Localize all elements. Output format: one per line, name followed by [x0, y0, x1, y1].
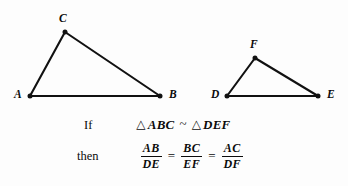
triangle-abc-outline [30, 32, 160, 96]
fraction-denominator: DF [222, 157, 243, 171]
triangle-def-outline [227, 58, 318, 96]
similarity-right-triangle-name: DEF [203, 117, 230, 133]
fraction-ac-df: AC DF [222, 142, 243, 170]
vertex-dot-b [158, 94, 163, 99]
vertex-label-b: B [169, 89, 177, 101]
triangle-glyph-right: △ [192, 117, 201, 132]
then-keyword: then [77, 149, 99, 164]
fraction-bc-ef: BC EF [181, 142, 202, 170]
fraction-denominator: EF [181, 157, 202, 171]
equals-sign-1: = [167, 148, 176, 164]
fraction-ab-de: AB DE [141, 142, 162, 170]
triangle-abc-group [28, 30, 163, 99]
vertex-dot-d [225, 94, 230, 99]
vertex-dot-a [28, 94, 33, 99]
similar-to-symbol: ~ [176, 116, 189, 132]
similarity-expression: △ ABC ~ △ DEF [136, 117, 230, 133]
similarity-left-triangle-name: ABC [148, 117, 175, 133]
vertex-label-e: E [327, 89, 335, 101]
vertex-dot-c [63, 30, 68, 35]
similar-triangles-figure: A B C D E F If △ ABC ~ △ DEF then AB DE … [0, 0, 348, 186]
vertex-label-d: D [211, 89, 219, 101]
fraction-numerator: AB [141, 142, 162, 156]
vertex-label-a: A [14, 89, 22, 101]
vertex-label-f: F [250, 39, 258, 51]
if-keyword: If [84, 118, 92, 133]
vertex-label-c: C [59, 13, 67, 25]
fraction-numerator: AC [222, 142, 243, 156]
equals-sign-2: = [207, 148, 216, 164]
triangle-def-group [225, 56, 321, 99]
if-statement-row: If △ ABC ~ △ DEF [84, 117, 230, 133]
vertex-dot-f [253, 56, 258, 61]
triangle-glyph-left: △ [136, 117, 145, 132]
fraction-denominator: DE [141, 157, 162, 171]
fraction-numerator: BC [181, 142, 202, 156]
proportion-equation: AB DE = BC EF = AC DF [141, 142, 243, 170]
then-statement-row: then AB DE = BC EF = AC DF [77, 142, 243, 170]
vertex-dot-e [316, 94, 321, 99]
